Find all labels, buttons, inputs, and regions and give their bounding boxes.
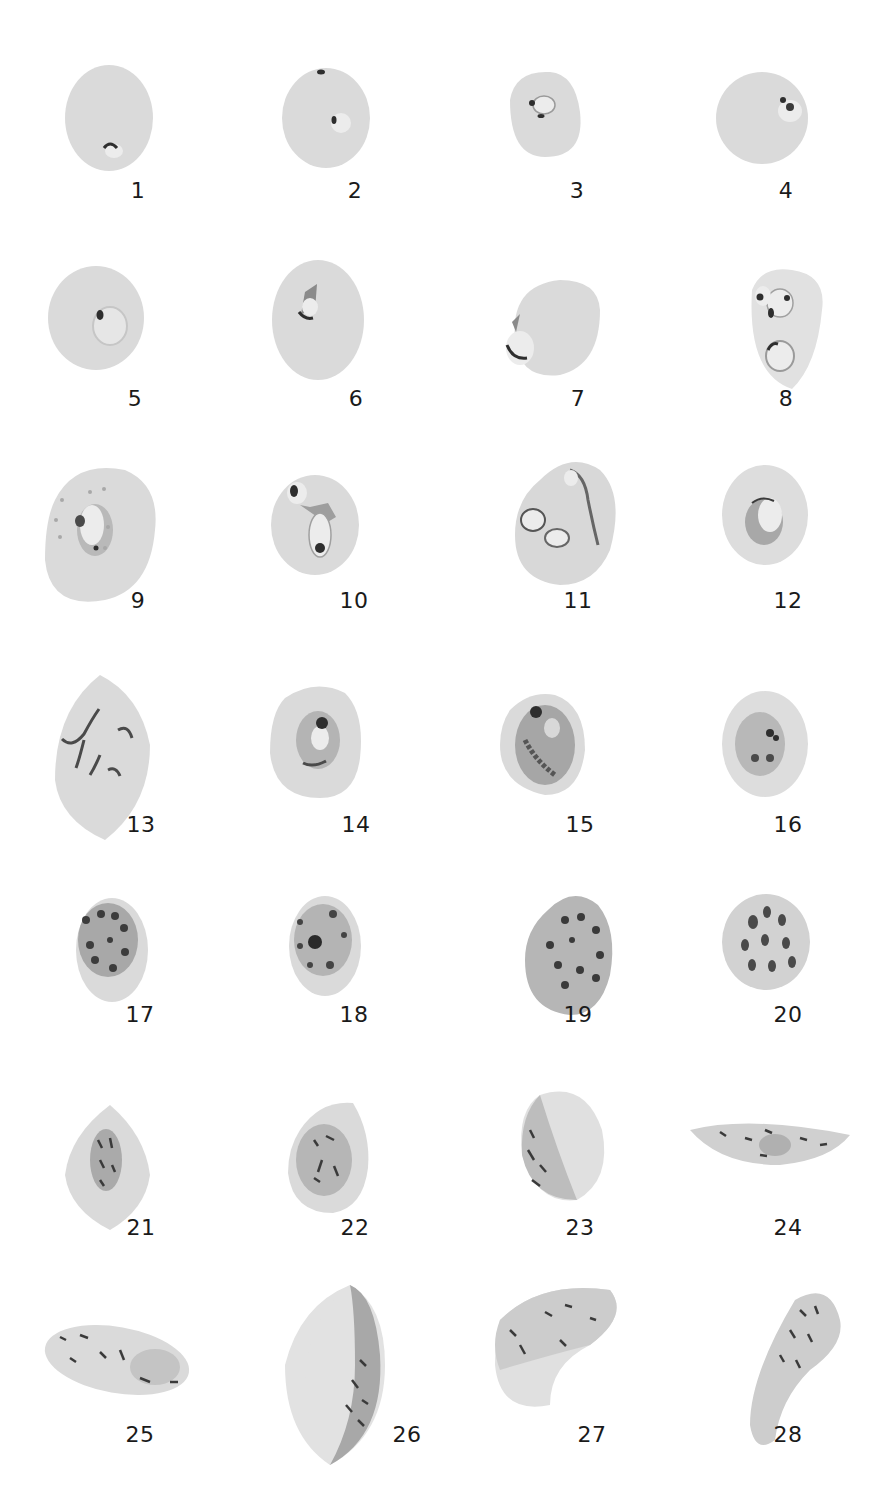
figure-label-9: 9 [131, 588, 146, 613]
figure-label-28: 28 [774, 1422, 803, 1447]
figure-label-17: 17 [126, 1002, 155, 1027]
figure-label-27: 27 [578, 1422, 607, 1447]
figure-label-22: 22 [341, 1215, 370, 1240]
figure-label-14: 14 [342, 812, 371, 837]
figure-label-4: 4 [779, 178, 794, 203]
figure-label-18: 18 [340, 1002, 369, 1027]
figure-label-11: 11 [564, 588, 593, 613]
figure-label-2: 2 [348, 178, 363, 203]
figure-label-6: 6 [349, 386, 364, 411]
figure-label-24: 24 [774, 1215, 803, 1240]
figure-label-8: 8 [779, 386, 794, 411]
figure-label-10: 10 [340, 588, 369, 613]
figure-label-7: 7 [571, 386, 586, 411]
figure-label-1: 1 [131, 178, 146, 203]
figure-label-16: 16 [774, 812, 803, 837]
figure-label-13: 13 [127, 812, 156, 837]
figure-label-19: 19 [564, 1002, 593, 1027]
figure-label-15: 15 [566, 812, 595, 837]
red-blood-cell-ring-stage-illustration [0, 0, 895, 1509]
figure-label-23: 23 [566, 1215, 595, 1240]
figure-label-21: 21 [127, 1215, 156, 1240]
figure-label-26: 26 [393, 1422, 422, 1447]
figure-label-25: 25 [126, 1422, 155, 1447]
figure-label-5: 5 [128, 386, 143, 411]
figure-label-12: 12 [774, 588, 803, 613]
figure-label-3: 3 [570, 178, 585, 203]
figure-label-20: 20 [774, 1002, 803, 1027]
